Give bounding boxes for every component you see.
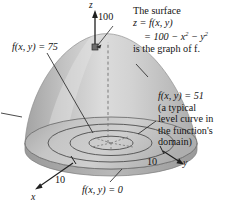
surface-caption-exp2: 2: [205, 30, 208, 37]
x-axis-label: x: [31, 191, 35, 203]
surface-caption-line4: is the graph of f.: [133, 43, 208, 55]
x-axis-tick-label: 10: [55, 174, 65, 186]
y-axis-label: y: [183, 157, 187, 169]
z-axis-tick-label: 100: [98, 11, 113, 23]
surface-caption-line1: The surface: [133, 5, 208, 17]
left-rim-tick: [1, 113, 22, 117]
surface-caption-line3-mid: − y: [188, 32, 205, 43]
surface-caption: The surface z = f(x, y) = 100 − x2 − y2 …: [133, 5, 208, 55]
label-level-0: f(x, y) = 0: [82, 184, 123, 196]
level-curve-caption-line5: domain): [158, 136, 213, 148]
surface-caption-line2: z = f(x, y): [133, 17, 208, 29]
label-level-75: f(x, y) = 75: [12, 41, 58, 53]
surface-caption-line3-prefix: = 100 − x: [144, 32, 185, 43]
level-curve-caption-line3: level curve in: [158, 113, 213, 125]
surface-figure: The surface z = f(x, y) = 100 − x2 − y2 …: [0, 0, 232, 210]
level-curve-caption-line2: (a typical: [158, 102, 213, 114]
y-axis-tick-label: 10: [147, 156, 157, 168]
level-curve-caption-line4: the function's: [158, 125, 213, 137]
level-curve-caption-line1: f(x, y) = 51: [158, 90, 213, 102]
z-axis-label: z: [89, 0, 93, 11]
level-curve-caption: f(x, y) = 51 (a typical level curve in t…: [158, 90, 213, 148]
surface-caption-line3: = 100 − x2 − y2: [133, 28, 208, 43]
